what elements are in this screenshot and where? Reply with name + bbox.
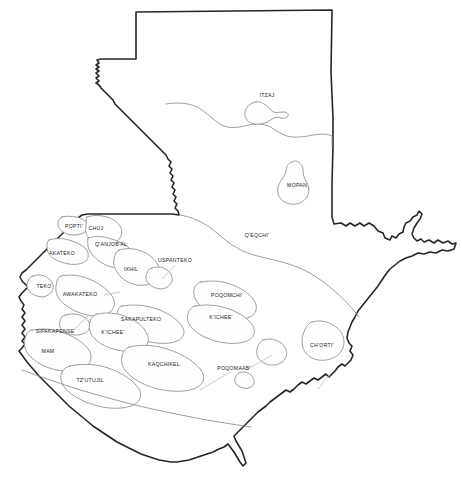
language-map-of-guatemala: ITZAJ MOPAN Q'EQCHI' POPTI' CHUJ Q'ANJOB… (0, 0, 462, 485)
map-svg-canvas (0, 0, 462, 485)
